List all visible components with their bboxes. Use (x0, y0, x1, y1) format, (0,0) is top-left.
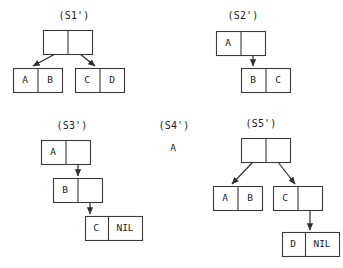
s1-right-leaf-cell-0-text: C (84, 74, 90, 85)
s1-left-leaf-cell-1-text: B (47, 74, 53, 85)
s3-node-b-cell-0-text: B (62, 184, 68, 195)
diagram-s4: (S4')A (158, 120, 189, 153)
s1-cdr-arrow (80, 54, 95, 66)
s5-cdr-arrow (278, 162, 295, 184)
s1-right-leaf: CD (76, 69, 125, 93)
diagram-s2: (S2')ABC (217, 10, 291, 93)
s3-node-c-cell-0-text: C (93, 222, 99, 233)
s5-left-leaf-cell-0-text: A (222, 192, 228, 203)
s1-car-arrow (33, 54, 55, 66)
s5-tail-node-cell-0-text: D (290, 238, 296, 249)
diagram-groups: (S1')ABCD(S2')ABC(S3')ABCNIL(S4')A(S5')A… (14, 10, 340, 257)
diagram-s1: (S1')ABCD (14, 10, 125, 93)
diagram-label-s4: (S4') (158, 120, 189, 131)
s1-left-leaf-cell-0-text: A (22, 74, 28, 85)
s2-root: A (217, 32, 266, 56)
s5-right-node-cell-0-text: C (282, 192, 288, 203)
s3-node-a-cell-0-text: A (50, 146, 56, 157)
s3-node-a: A (42, 141, 91, 165)
s4-atom: A (170, 142, 176, 153)
s3-node-c-cell-1-text: NIL (116, 222, 133, 233)
s5-root (242, 139, 291, 163)
s5-right-node: C (274, 187, 323, 211)
s3-node-b: B (54, 179, 103, 203)
diagram-svg-layer: (S1')ABCD(S2')ABC(S3')ABCNIL(S4')A(S5')A… (0, 0, 343, 268)
s2-tail: BC (242, 69, 291, 93)
s2-tail-cell-0-text: B (250, 74, 256, 85)
s3-node-c: CNIL (86, 217, 143, 241)
s5-tail-node: DNIL (283, 233, 340, 257)
s1-root (44, 31, 93, 55)
diagram-s5: (S5')ABCDNIL (214, 118, 340, 257)
s5-left-leaf: AB (214, 187, 263, 211)
s1-right-leaf-cell-1-text: D (109, 74, 115, 85)
s5-left-leaf-cell-1-text: B (247, 192, 253, 203)
diagram-label-s1: (S1') (58, 10, 89, 21)
diagram-label-s2: (S2') (227, 10, 258, 21)
s2-tail-cell-1-text: C (275, 74, 281, 85)
diagram-canvas: (S1')ABCD(S2')ABC(S3')ABCNIL(S4')A(S5')A… (0, 0, 343, 268)
diagram-s3: (S3')ABCNIL (42, 120, 143, 241)
s1-left-leaf: AB (14, 69, 63, 93)
diagram-label-s3: (S3') (56, 120, 87, 131)
diagram-label-s5: (S5') (245, 118, 276, 129)
s5-tail-node-cell-1-text: NIL (313, 238, 330, 249)
s5-car-arrow (232, 162, 253, 184)
s2-root-cell-0-text: A (225, 37, 231, 48)
